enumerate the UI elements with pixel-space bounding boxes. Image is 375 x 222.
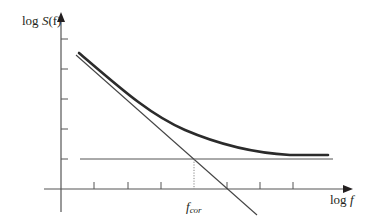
- y-axis-ticks: [61, 39, 68, 159]
- x-axis-label: log f: [330, 192, 356, 207]
- flicker-asymptote: [76, 55, 257, 215]
- corner-frequency-label: fcor: [186, 199, 202, 215]
- x-axis-ticks: [94, 182, 293, 189]
- total-noise-curve: [79, 53, 328, 155]
- y-axis-label: log S(f): [22, 13, 61, 28]
- noise-spectrum-diagram: log S(f) log f fcor: [0, 0, 375, 222]
